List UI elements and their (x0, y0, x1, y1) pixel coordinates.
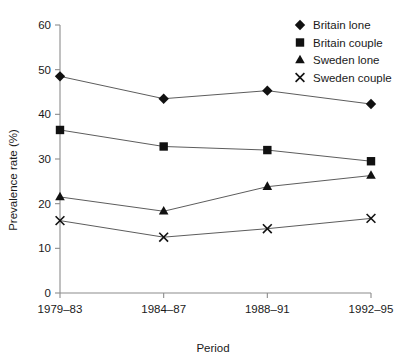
y-axis-title: Prevalence rate (%) (7, 129, 19, 231)
legend: Britain loneBritain coupleSweden loneSwe… (295, 19, 392, 84)
y-tick-label: 0 (45, 287, 51, 299)
y-tick-label: 20 (38, 198, 51, 210)
data-point-square (296, 38, 304, 46)
data-point-cross (296, 73, 305, 82)
y-tick-label: 40 (38, 108, 51, 120)
x-axis-title: Period (196, 342, 229, 354)
data-point-diamond (55, 71, 65, 81)
legend-label: Britain lone (313, 19, 371, 31)
legend-label: Sweden lone (313, 54, 380, 66)
data-point-square (159, 142, 167, 150)
legend-item-britain-lone[interactable]: Britain lone (295, 19, 371, 31)
x-tick-label: 1992–95 (349, 303, 394, 315)
data-point-triangle (55, 192, 65, 201)
series-sweden-couple (56, 214, 376, 242)
data-point-triangle (263, 181, 273, 190)
x-axis: 1979–831984–871988–911992–95 (38, 293, 394, 315)
data-point-triangle (366, 170, 376, 179)
legend-item-sweden-couple[interactable]: Sweden couple (296, 72, 392, 84)
data-point-square (56, 126, 64, 134)
legend-item-sweden-lone[interactable]: Sweden lone (295, 54, 379, 66)
data-point-square (263, 146, 271, 154)
legend-label: Britain couple (313, 37, 383, 49)
x-tick-label: 1979–83 (38, 303, 83, 315)
y-tick-label: 50 (38, 64, 51, 76)
series-sweden-lone (55, 170, 376, 214)
y-tick-label: 30 (38, 153, 51, 165)
data-point-triangle (295, 55, 305, 64)
legend-item-britain-couple[interactable]: Britain couple (296, 37, 383, 49)
chart-container: 0102030405060 1979–831984–871988–911992–… (0, 0, 417, 361)
data-point-diamond (158, 94, 168, 104)
data-point-diamond (262, 85, 272, 95)
y-tick-label: 10 (38, 242, 51, 254)
data-point-diamond (295, 20, 305, 30)
series-britain-couple (56, 126, 375, 166)
series-layer (55, 71, 376, 241)
x-tick-label: 1988–91 (245, 303, 290, 315)
data-point-square (367, 157, 375, 165)
legend-label: Sweden couple (313, 72, 392, 84)
data-point-diamond (366, 99, 376, 109)
y-axis: 0102030405060 (38, 19, 60, 299)
x-tick-label: 1984–87 (141, 303, 186, 315)
line-chart: 0102030405060 1979–831984–871988–911992–… (0, 0, 417, 361)
y-tick-label: 60 (38, 19, 51, 31)
